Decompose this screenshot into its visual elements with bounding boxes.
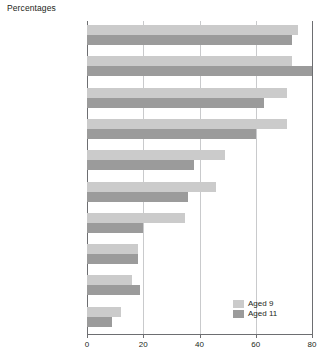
legend-label: Aged 11 xyxy=(248,309,277,318)
gridline-80 xyxy=(312,21,313,334)
chart-title: Percentages xyxy=(7,3,56,13)
legend-item-aged9: Aged 9 xyxy=(233,299,277,308)
x-tick-label: 0 xyxy=(85,340,89,349)
chart-legend: Aged 9 Aged 11 xyxy=(233,299,277,318)
bar-aged9 xyxy=(87,275,132,285)
bar-aged11 xyxy=(87,66,312,76)
tick-mark-0 xyxy=(87,334,88,338)
bar-aged11 xyxy=(87,317,112,327)
bar-aged11 xyxy=(87,223,143,233)
bar-aged11 xyxy=(87,160,194,170)
bar-aged9 xyxy=(87,150,225,160)
x-tick-label: 80 xyxy=(308,340,317,349)
x-tick-label: 40 xyxy=(195,340,204,349)
bar-aged9 xyxy=(87,182,216,192)
tick-mark-60 xyxy=(256,334,257,338)
bar-aged11 xyxy=(87,35,292,45)
bar-aged9 xyxy=(87,25,298,35)
bar-aged9 xyxy=(87,244,138,254)
bar-aged9 xyxy=(87,213,185,223)
bar-aged11 xyxy=(87,254,138,264)
tick-mark-20 xyxy=(143,334,144,338)
legend-swatch-icon xyxy=(233,300,244,308)
tick-mark-40 xyxy=(200,334,201,338)
bar-aged11 xyxy=(87,192,188,202)
bar-aged9 xyxy=(87,119,287,129)
bar-aged9 xyxy=(87,88,287,98)
plot-area: 0 20 40 60 80 I like reading silently by… xyxy=(87,21,312,334)
bar-aged9 xyxy=(87,307,121,317)
bar-chart: Percentages 0 20 40 60 80 I like reading… xyxy=(0,0,328,361)
legend-label: Aged 9 xyxy=(248,299,273,308)
bar-aged11 xyxy=(87,98,264,108)
legend-item-aged11: Aged 11 xyxy=(233,309,277,318)
x-tick-label: 60 xyxy=(251,340,260,349)
bar-aged11 xyxy=(87,285,140,295)
legend-swatch-icon xyxy=(233,310,244,318)
bar-aged9 xyxy=(87,56,292,66)
bar-aged11 xyxy=(87,129,256,139)
x-tick-label: 20 xyxy=(139,340,148,349)
tick-mark-80 xyxy=(312,334,313,338)
